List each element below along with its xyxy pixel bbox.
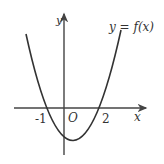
y-axis-label: y bbox=[55, 14, 63, 27]
tick-label-2: 2 bbox=[102, 112, 110, 126]
function-graph: y y = f(x) -1 O 2 x bbox=[0, 0, 164, 164]
origin-label: O bbox=[68, 111, 78, 125]
x-axis-label: x bbox=[134, 110, 141, 124]
function-label: y = f(x) bbox=[108, 20, 154, 34]
tick-label-neg1: -1 bbox=[35, 112, 47, 126]
